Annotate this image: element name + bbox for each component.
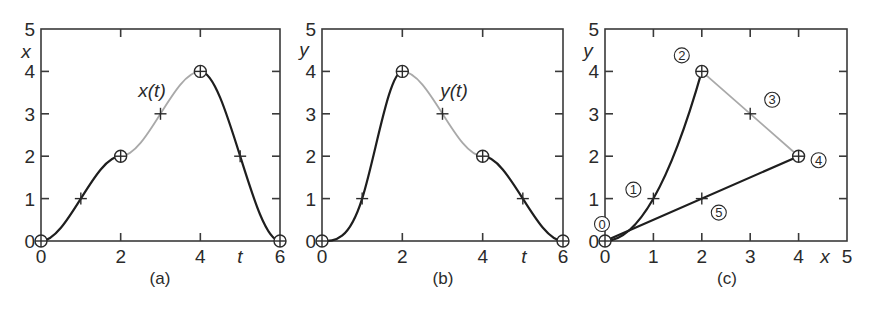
key-point-marker xyxy=(35,235,47,247)
panel-c: 012345012345 024135 y x (c) xyxy=(581,19,852,288)
panel-a-xlabel: t xyxy=(237,246,243,267)
point-label-badge: 3 xyxy=(765,92,780,107)
key-point-marker xyxy=(477,150,489,162)
panel-a: 0246012345 x t x(t) (a) xyxy=(20,19,286,288)
panel-b-curve-label: y(t) xyxy=(438,80,467,101)
y-tick-label: 5 xyxy=(588,19,599,40)
point-label-badge: 5 xyxy=(711,205,726,220)
x-tick-label: 5 xyxy=(842,246,853,267)
intermediate-point-marker xyxy=(696,193,708,205)
key-point-marker xyxy=(696,65,708,77)
badge-number: 1 xyxy=(630,182,637,197)
panel-c-caption: (c) xyxy=(717,269,737,288)
x-tick-label: 3 xyxy=(745,246,756,267)
panel-a-ticks xyxy=(41,29,280,241)
x-tick-label: 0 xyxy=(600,246,611,267)
y-tick-label: 3 xyxy=(305,104,316,125)
curve-segment-dark xyxy=(322,71,402,241)
badge-number: 3 xyxy=(769,92,776,107)
intermediate-point-marker xyxy=(517,193,529,205)
panel-c-ylabel: y xyxy=(581,40,594,61)
intermediate-point-marker xyxy=(234,150,246,162)
key-point-marker xyxy=(316,235,328,247)
panel-a-ylabel: x xyxy=(20,41,32,62)
y-tick-label: 0 xyxy=(305,231,316,252)
key-point-marker xyxy=(793,150,805,162)
key-point-marker xyxy=(396,65,408,77)
x-tick-label: 1 xyxy=(648,246,659,267)
badge-number: 5 xyxy=(715,205,722,220)
intermediate-point-marker xyxy=(75,193,87,205)
x-tick-label: 4 xyxy=(793,246,804,267)
y-tick-label: 4 xyxy=(588,61,599,82)
panel-b-ylabel: y xyxy=(297,39,310,60)
badge-number: 2 xyxy=(678,48,685,63)
intermediate-point-marker xyxy=(647,193,659,205)
point-label-badge: 2 xyxy=(674,48,689,63)
path-segment-dark xyxy=(605,71,702,241)
intermediate-point-marker xyxy=(437,108,449,120)
y-tick-label: 4 xyxy=(24,61,35,82)
key-point-marker xyxy=(599,235,611,247)
panel-a-frame xyxy=(41,29,280,241)
panel-a-tick-labels: 0246012345 xyxy=(24,19,285,267)
x-tick-label: 4 xyxy=(195,246,206,267)
key-point-marker xyxy=(115,150,127,162)
key-point-marker xyxy=(274,235,286,247)
y-tick-label: 3 xyxy=(588,104,599,125)
y-tick-label: 1 xyxy=(305,189,316,210)
y-tick-label: 2 xyxy=(24,146,35,167)
intermediate-point-marker xyxy=(155,108,167,120)
point-label-badge: 4 xyxy=(811,153,826,168)
panel-b: 0246012345 y t y(t) (b) xyxy=(297,19,569,288)
panel-c-point-labels: 024135 xyxy=(595,48,827,232)
x-tick-label: 2 xyxy=(397,246,408,267)
y-tick-label: 2 xyxy=(305,146,316,167)
point-label-badge: 0 xyxy=(595,217,610,232)
x-tick-label: 0 xyxy=(36,246,47,267)
y-tick-label: 5 xyxy=(24,19,35,40)
figure: 0246012345 x t x(t) (a) 0246012345 y t y… xyxy=(0,0,871,317)
x-tick-label: 6 xyxy=(275,246,286,267)
y-tick-label: 1 xyxy=(24,189,35,210)
y-tick-label: 0 xyxy=(588,231,599,252)
panel-b-tick-labels: 0246012345 xyxy=(305,19,568,267)
y-tick-label: 3 xyxy=(24,104,35,125)
y-tick-label: 2 xyxy=(588,146,599,167)
y-tick-label: 4 xyxy=(305,61,316,82)
badge-number: 0 xyxy=(598,217,605,232)
x-tick-label: 0 xyxy=(317,246,328,267)
y-tick-label: 5 xyxy=(305,19,316,40)
panel-b-xlabel: t xyxy=(521,246,527,267)
y-tick-label: 0 xyxy=(24,231,35,252)
panel-a-caption: (a) xyxy=(150,269,171,288)
y-tick-label: 1 xyxy=(588,189,599,210)
point-label-badge: 1 xyxy=(626,182,641,197)
panel-a-curve-label: x(t) xyxy=(137,80,165,101)
panel-b-caption: (b) xyxy=(433,269,454,288)
x-tick-label: 2 xyxy=(697,246,708,267)
x-tick-label: 4 xyxy=(477,246,488,267)
intermediate-point-marker xyxy=(356,193,368,205)
key-point-marker xyxy=(194,65,206,77)
panel-c-xlabel: x xyxy=(819,246,831,267)
key-point-marker xyxy=(557,235,569,247)
x-tick-label: 2 xyxy=(115,246,126,267)
x-tick-label: 6 xyxy=(558,246,569,267)
badge-number: 4 xyxy=(815,153,822,168)
